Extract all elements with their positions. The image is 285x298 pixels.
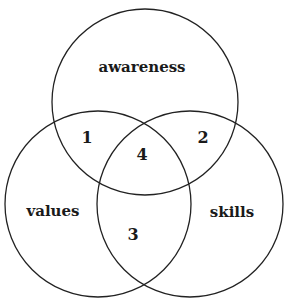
region-3-label: 3 bbox=[127, 225, 138, 244]
skills-circle bbox=[97, 111, 283, 297]
venn-diagram: awareness values skills 1 2 3 4 bbox=[0, 0, 285, 298]
skills-label: skills bbox=[210, 203, 254, 221]
awareness-label: awareness bbox=[98, 58, 185, 76]
region-1-label: 1 bbox=[81, 128, 92, 147]
region-2-label: 2 bbox=[197, 128, 208, 147]
region-4-label: 4 bbox=[136, 145, 147, 164]
awareness-circle bbox=[52, 9, 238, 195]
values-label: values bbox=[25, 202, 79, 220]
